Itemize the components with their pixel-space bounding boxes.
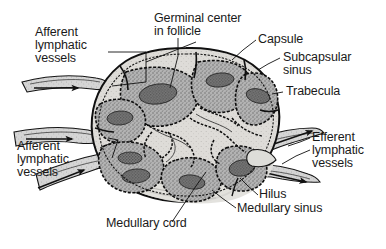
lymph-node-diagram: Afferent lymphatic vessels Afferent lymp… bbox=[0, 0, 386, 249]
label-medullary-sinus: Medullary sinus bbox=[237, 202, 322, 215]
label-capsule: Capsule bbox=[258, 33, 303, 46]
label-subcapsular-sinus: Subcapsular sinus bbox=[283, 51, 351, 77]
label-efferent-lymphatic-vessels: Efferent lymphatic vessels bbox=[312, 131, 364, 171]
label-trabecula: Trabecula bbox=[286, 85, 340, 98]
label-hilus: Hilus bbox=[259, 188, 286, 201]
label-afferent-lymphatic-vessels-top: Afferent lymphatic vessels bbox=[35, 26, 87, 66]
label-medullary-cord: Medullary cord bbox=[106, 217, 187, 230]
label-germinal-center-in-follicle: Germinal center in follicle bbox=[154, 12, 241, 38]
label-afferent-lymphatic-vessels-bottom: Afferent lymphatic vessels bbox=[17, 140, 69, 180]
